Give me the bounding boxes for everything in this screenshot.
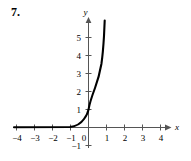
x-tick-label--4: −4 (12, 133, 22, 143)
x-tick-label-4: 4 (159, 133, 164, 143)
y-tick-label-4: 4 (77, 51, 82, 61)
y-axis-label: y (83, 7, 88, 17)
y-tick-label-1: 1 (77, 105, 82, 115)
y-tick-label-2: 2 (77, 87, 82, 97)
x-axis-arrow-icon (165, 125, 172, 131)
y-axis-arrow-icon (86, 17, 92, 23)
x-axis-tick-labels: −4 −3 −2 −1 0 1 2 3 4 (12, 133, 164, 143)
y-tick-label-5: 5 (77, 33, 82, 43)
x-tick-label-3: 3 (141, 133, 146, 143)
y-tick-label-3: 3 (77, 69, 82, 79)
exponential-graph-figure: 7. (0, 0, 191, 161)
origin-label: 0 (82, 133, 87, 143)
x-tick-label-1: 1 (105, 133, 110, 143)
x-tick-label-2: 2 (123, 133, 128, 143)
x-tick-label--2: −2 (48, 133, 58, 143)
y-tick-label--1: −1 (71, 141, 81, 151)
x-tick-label--3: −3 (30, 133, 40, 143)
coordinate-plot: y x −4 −3 −2 −1 0 1 2 3 4 1 2 3 4 5 −1 (0, 0, 191, 161)
x-axis-label: x (174, 122, 179, 132)
